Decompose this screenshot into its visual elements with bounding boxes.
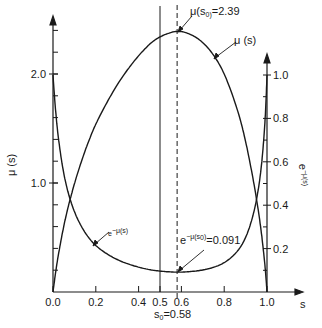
axes <box>50 16 303 295</box>
right-axis-label: e−μ(s) <box>297 164 309 186</box>
right-y-tick-label: 0.6 <box>273 156 288 168</box>
x-axis-label: s <box>300 298 306 310</box>
right-y-tick-label: 0.4 <box>273 199 288 211</box>
right-axis-arrow-icon <box>264 54 270 63</box>
s0-annotation: s0=0.58 <box>154 308 191 321</box>
left-y-tick-label: 2.0 <box>31 68 46 80</box>
x-tick-label: 0.4 <box>131 296 146 308</box>
left-axis-arrow-icon <box>50 16 56 25</box>
left-y-tick-label: 1.0 <box>31 177 46 189</box>
exp-curve-label: e−μ(s) <box>108 227 128 237</box>
min-annotation: e−μ(s0)=0.091 <box>180 233 240 246</box>
right-y-tick-label: 0.8 <box>273 112 288 124</box>
right-y-tick-label: 0.2 <box>273 243 288 255</box>
x-tick-label: 0.6 <box>174 296 189 308</box>
x-tick-label: 1.0 <box>259 296 274 308</box>
x-tick-label: 0.0 <box>45 296 60 308</box>
chart: 0.00.20.40.50.60.81.01.02.00.20.40.60.81… <box>0 0 322 328</box>
mu-curve-label: μ (s) <box>234 34 256 46</box>
left-axis-label: μ (s) <box>5 154 17 176</box>
peak-annotation: μ(s0)=2.39 <box>190 5 240 19</box>
x-axis-arrow-icon <box>295 289 303 295</box>
vertical-reference-lines <box>160 4 177 298</box>
x-tick-label: 0.8 <box>217 296 232 308</box>
x-tick-label: 0.2 <box>88 296 103 308</box>
right-y-tick-label: 1.0 <box>273 69 288 81</box>
x-tick-label: 0.5 <box>152 296 167 308</box>
